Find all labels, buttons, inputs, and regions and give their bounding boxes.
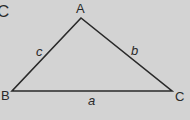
vertex-b-label: B xyxy=(1,88,10,103)
triangle-svg: C A B C c b a xyxy=(0,0,190,120)
corner-label: C xyxy=(0,2,9,21)
side-c-label: c xyxy=(36,44,43,59)
side-a-label: a xyxy=(88,93,95,108)
side-b-label: b xyxy=(131,43,138,58)
vertex-a-label: A xyxy=(76,1,85,16)
vertex-c-label: C xyxy=(175,89,184,104)
triangle-diagram: C A B C c b a xyxy=(0,0,190,120)
